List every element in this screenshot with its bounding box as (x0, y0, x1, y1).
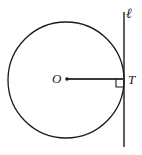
tangent-point-label: T (128, 73, 135, 86)
center-label: O (52, 72, 61, 85)
right-angle-marker (116, 79, 124, 87)
center-dot (65, 77, 69, 81)
tangent-line-label: ℓ (126, 6, 132, 20)
diagram-canvas (0, 0, 142, 155)
geometry-figure: ℓ O T (0, 0, 142, 155)
